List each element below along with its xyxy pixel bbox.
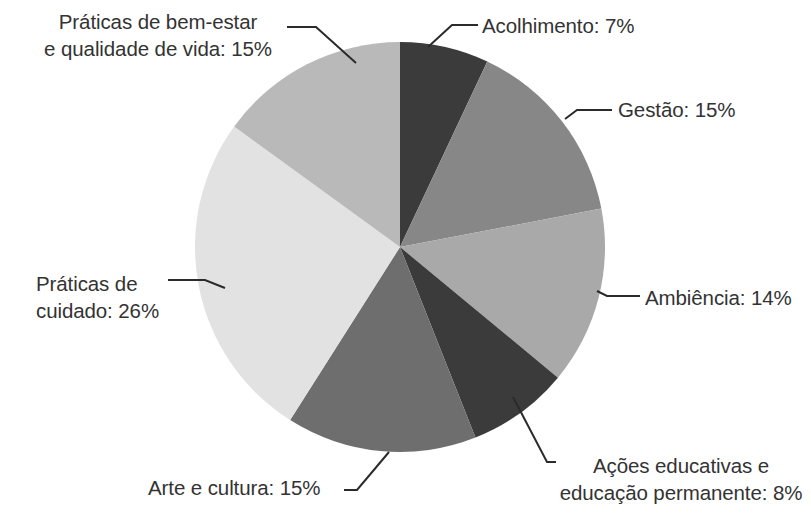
leader-line-gestao xyxy=(565,110,612,119)
leader-line-ambiencia xyxy=(597,291,640,296)
pie-label-ambiencia: Ambiência: 14% xyxy=(645,284,811,311)
pie-label-praticas-de-cuidado: Práticas de cuidado: 26% xyxy=(36,270,206,324)
pie-label-praticas-de-bem-estar: Práticas de bem-estar e qualidade de vid… xyxy=(18,8,298,62)
pie-label-arte-e-cultura: Arte e cultura: 15% xyxy=(148,474,348,501)
leader-line-arte xyxy=(344,452,389,490)
leader-line-acolhimento xyxy=(428,25,478,47)
pie-slice-group xyxy=(195,42,605,452)
pie-chart: Práticas de bem-estar e qualidade de vid… xyxy=(0,0,811,532)
pie-label-acolhimento: Acolhimento: 7% xyxy=(482,12,712,39)
pie-label-acoes-educativas: Ações educativas e educação permanente: … xyxy=(556,452,806,506)
pie-label-gestao: Gestão: 15% xyxy=(618,96,798,123)
